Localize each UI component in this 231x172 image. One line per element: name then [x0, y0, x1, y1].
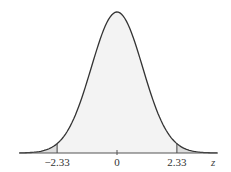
tick-label-center: 0	[114, 156, 120, 168]
curve-body-fill	[19, 12, 217, 153]
tick-label-right: 2.33	[167, 156, 187, 168]
chart-canvas: −2.33 0 2.33 z	[0, 0, 231, 172]
normal-distribution-chart: −2.33 0 2.33 z	[0, 0, 231, 172]
axis-label-z: z	[210, 156, 216, 168]
tick-label-left: −2.33	[44, 156, 70, 168]
